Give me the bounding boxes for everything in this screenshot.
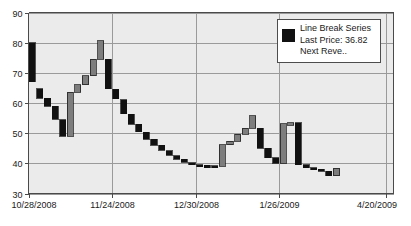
line-break-block	[311, 168, 317, 170]
line-break-block	[235, 134, 241, 141]
line-break-block	[265, 148, 271, 158]
y-tick-label: 40	[12, 159, 22, 169]
legend-series-label: Line Break Series	[300, 23, 371, 35]
line-break-block	[181, 159, 187, 162]
x-tick-label: 10/28/2008	[11, 200, 56, 210]
line-break-block	[219, 145, 225, 166]
line-break-block	[159, 145, 165, 150]
line-break-block	[82, 76, 88, 85]
line-break-block	[189, 163, 195, 165]
line-break-block	[250, 116, 256, 129]
line-break-block	[212, 166, 218, 168]
line-break-block	[303, 165, 309, 168]
line-break-block	[105, 59, 111, 88]
y-tick-label: 90	[12, 9, 22, 19]
line-break-block	[60, 120, 66, 137]
line-break-block	[288, 123, 294, 125]
line-break-block	[273, 158, 279, 163]
line-break-block	[204, 165, 210, 167]
line-break-block	[90, 59, 96, 76]
y-axis-labels: 30405060708090	[12, 9, 28, 200]
line-break-block	[136, 124, 142, 132]
x-tick-label: 4/20/2009	[357, 200, 397, 210]
x-axis-labels: 10/28/200811/24/200812/30/20081/26/20094…	[11, 194, 397, 210]
line-break-block	[257, 128, 263, 148]
line-break-block	[280, 124, 286, 164]
x-tick-label: 1/26/2009	[259, 200, 299, 210]
line-break-block	[166, 151, 172, 156]
line-break-block	[227, 141, 233, 144]
line-break-block	[151, 139, 157, 145]
line-break-chart: 30405060708090 10/28/200811/24/200812/30…	[0, 0, 411, 226]
line-break-block	[143, 132, 149, 139]
line-break-block	[75, 85, 81, 92]
x-tick-label: 11/24/2008	[90, 200, 134, 210]
line-break-block	[333, 168, 339, 175]
line-break-block	[37, 89, 43, 99]
chart-legend[interactable]: Line Break Series Last Price: 36.82 Next…	[277, 19, 381, 63]
line-break-block	[44, 98, 50, 106]
legend-color-swatch	[282, 29, 295, 42]
y-tick-label: 30	[12, 190, 22, 200]
y-tick-label: 80	[12, 39, 22, 49]
line-break-block	[113, 89, 119, 99]
line-break-block	[98, 41, 104, 59]
legend-last-price-label: Last Price: 36.82	[300, 35, 371, 47]
line-break-block	[29, 43, 35, 82]
legend-next-reversal-label: Next Reve..	[300, 46, 371, 58]
y-tick-label: 70	[12, 69, 22, 79]
line-break-block	[174, 156, 180, 160]
line-break-block	[326, 171, 332, 176]
line-break-block	[242, 128, 248, 134]
line-break-block	[318, 169, 324, 171]
line-break-block	[67, 92, 73, 136]
x-tick-label: 12/30/2008	[174, 200, 219, 210]
line-break-block	[128, 114, 134, 124]
y-tick-label: 60	[12, 99, 22, 109]
line-break-block	[52, 106, 58, 119]
y-tick-label: 50	[12, 129, 22, 139]
line-break-block	[197, 165, 203, 167]
legend-text-block: Line Break Series Last Price: 36.82 Next…	[300, 23, 371, 58]
line-break-block	[295, 123, 301, 165]
line-break-block	[121, 100, 127, 114]
